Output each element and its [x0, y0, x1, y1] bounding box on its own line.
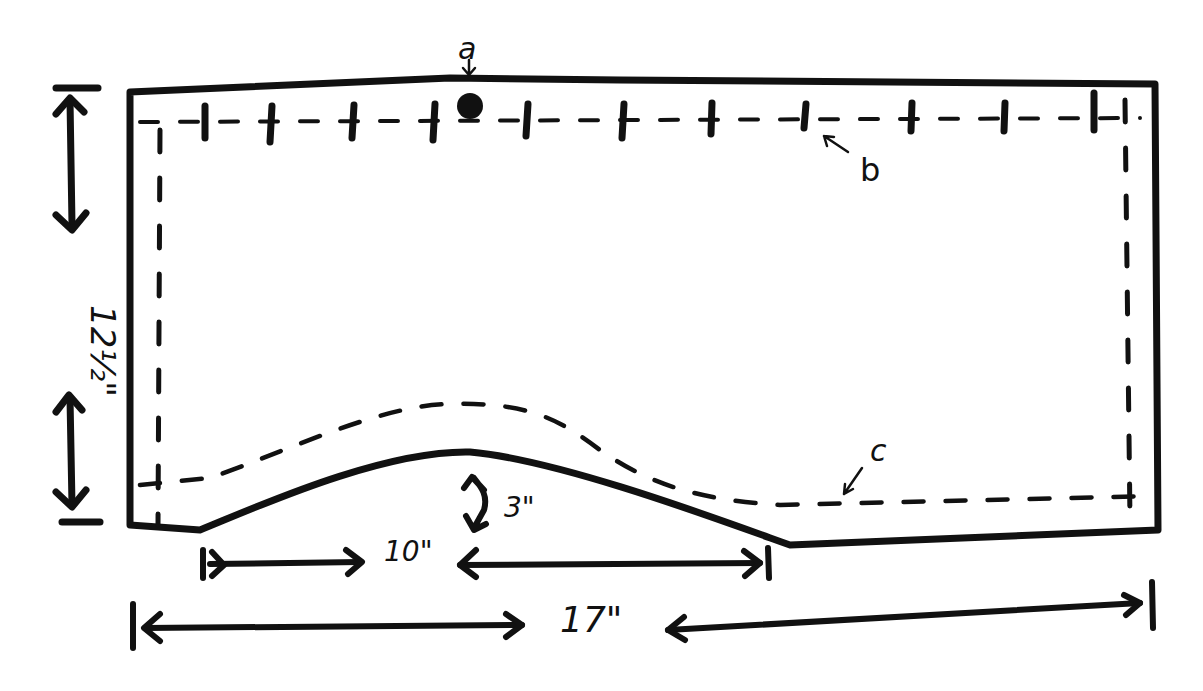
label-a: a	[458, 34, 476, 64]
total-width-dimension	[133, 582, 1153, 648]
curve-span-label: 10"	[384, 538, 433, 566]
point-a-dot	[457, 93, 483, 119]
stitch-line-b	[140, 93, 1140, 142]
height-label: 12½"	[86, 305, 120, 397]
total-width-label: 17"	[560, 602, 622, 638]
curve-rise-label: 3"	[504, 494, 535, 522]
curve-rise-dimension	[464, 477, 486, 530]
label-b: b	[860, 154, 880, 186]
label-b-arrow	[824, 136, 848, 152]
left-seam-line	[158, 130, 160, 525]
curve-span-dimension	[203, 548, 769, 578]
label-c: c	[870, 436, 887, 466]
pattern-outline	[130, 78, 1158, 545]
right-seam-line	[1125, 100, 1130, 520]
pattern-diagram	[0, 0, 1203, 691]
label-c-arrow	[844, 468, 862, 494]
